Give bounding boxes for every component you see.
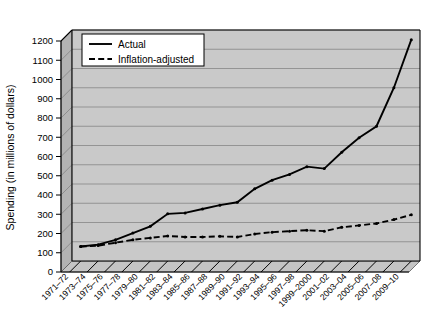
y-tick-label: 200 bbox=[37, 228, 53, 239]
data-point bbox=[97, 244, 100, 247]
data-point bbox=[271, 179, 274, 182]
data-point bbox=[236, 201, 239, 204]
y-tick-label: 700 bbox=[37, 132, 53, 143]
data-point bbox=[166, 212, 169, 215]
y-tick-label: 100 bbox=[37, 247, 53, 258]
data-point bbox=[392, 218, 395, 221]
data-point bbox=[288, 230, 291, 233]
data-point bbox=[271, 231, 274, 234]
y-axis-title: Spending (in millions of dollars) bbox=[4, 85, 16, 231]
y-tick-label: 1100 bbox=[33, 55, 53, 66]
data-point bbox=[114, 241, 117, 244]
y-tick-label: 800 bbox=[37, 112, 53, 123]
data-point bbox=[149, 225, 152, 228]
data-point bbox=[305, 165, 308, 168]
data-point bbox=[201, 208, 204, 211]
data-point bbox=[358, 224, 361, 227]
data-point bbox=[375, 222, 378, 225]
data-point bbox=[358, 136, 361, 139]
data-point bbox=[218, 204, 221, 207]
y-axis-tick-labels: 0100200300400500600700800900100011001200 bbox=[32, 35, 53, 277]
data-point bbox=[79, 245, 82, 248]
data-point bbox=[131, 232, 134, 235]
chart-container: 0100200300400500600700800900100011001200… bbox=[0, 0, 442, 330]
data-point bbox=[323, 230, 326, 233]
data-point bbox=[323, 167, 326, 170]
y-tick-label: 0 bbox=[48, 266, 53, 277]
y-axis-title-text: Spending (in millions of dollars) bbox=[4, 85, 16, 231]
y-tick-label: 400 bbox=[37, 189, 53, 200]
data-point bbox=[410, 213, 413, 216]
data-point bbox=[166, 234, 169, 237]
line-chart: 0100200300400500600700800900100011001200… bbox=[0, 0, 442, 330]
data-point bbox=[392, 86, 395, 89]
legend-label: Inflation-adjusted bbox=[118, 54, 194, 65]
data-point bbox=[184, 235, 187, 238]
y-tick-label: 500 bbox=[37, 170, 53, 181]
data-point bbox=[201, 235, 204, 238]
data-point bbox=[410, 38, 413, 41]
data-point bbox=[288, 173, 291, 176]
data-point bbox=[253, 233, 256, 236]
y-tick-label: 1000 bbox=[32, 74, 53, 85]
data-point bbox=[253, 187, 256, 190]
data-point bbox=[149, 236, 152, 239]
data-point bbox=[184, 211, 187, 214]
data-point bbox=[340, 226, 343, 229]
data-point bbox=[236, 235, 239, 238]
data-point bbox=[131, 238, 134, 241]
y-axis-ticks bbox=[56, 41, 61, 272]
data-point bbox=[375, 125, 378, 128]
chart-legend: ActualInflation-adjusted bbox=[82, 34, 204, 66]
data-point bbox=[114, 238, 117, 241]
data-point bbox=[305, 229, 308, 232]
data-point bbox=[218, 235, 221, 238]
y-tick-label: 600 bbox=[37, 151, 53, 162]
y-tick-label: 900 bbox=[37, 93, 53, 104]
legend-label: Actual bbox=[118, 39, 146, 50]
data-point bbox=[340, 151, 343, 154]
y-tick-label: 300 bbox=[37, 209, 53, 220]
y-tick-label: 1200 bbox=[32, 35, 53, 46]
x-axis-tick-labels: 1971–721973–741975–761977–781979–801981–… bbox=[39, 271, 400, 309]
